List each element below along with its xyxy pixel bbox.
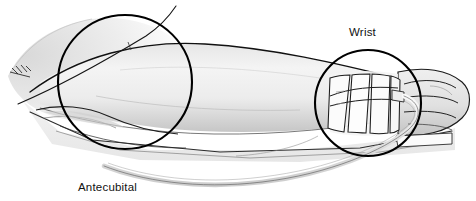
illustration-canvas: Wrist Antecubital fossa bbox=[0, 0, 476, 201]
label-wrist: Wrist bbox=[349, 26, 376, 40]
label-antecubital-fossa: Antecubital fossa bbox=[78, 154, 137, 201]
arm-iv-illustration bbox=[0, 0, 476, 201]
label-antecubital-fossa-line1: Antecubital bbox=[78, 181, 137, 195]
iv-tape-securement bbox=[328, 71, 404, 136]
